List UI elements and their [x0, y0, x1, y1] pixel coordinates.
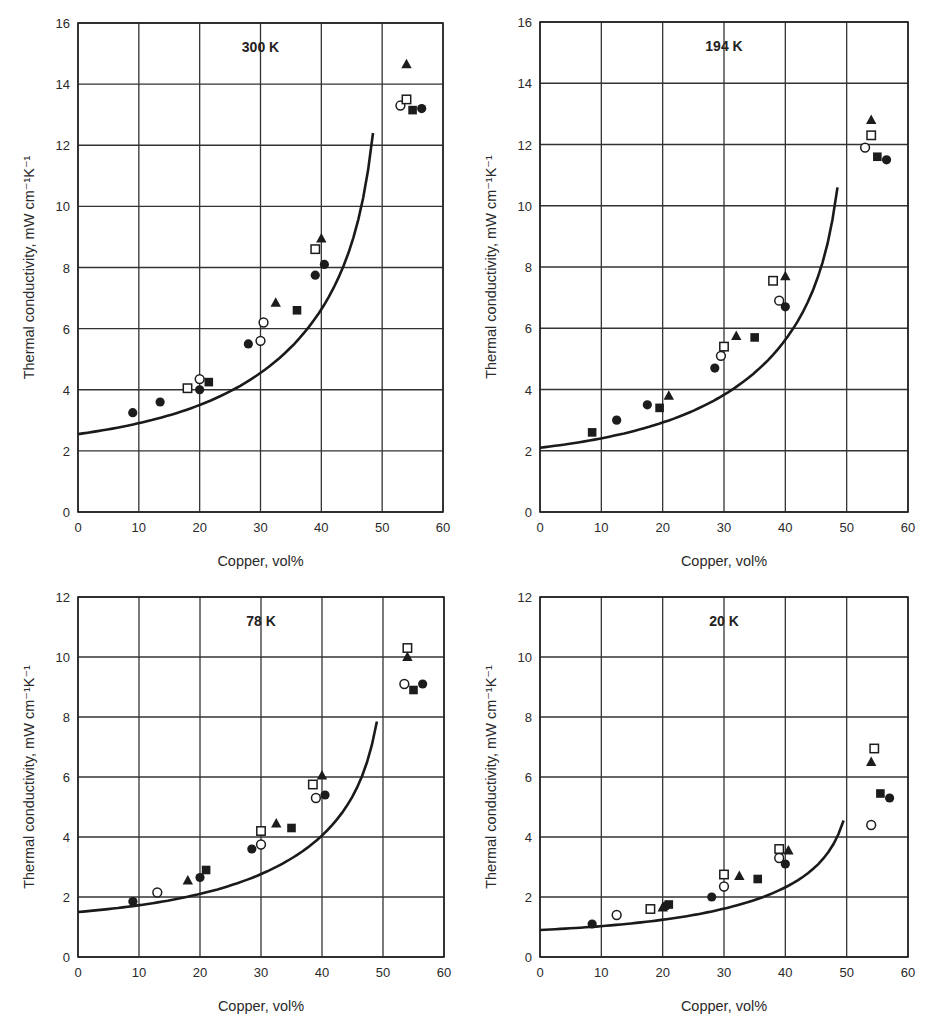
- marker-filled-circle: [128, 408, 137, 417]
- marker-filled-triangle: [271, 297, 281, 307]
- svg-text:16: 16: [56, 16, 70, 31]
- marker-filled-triangle: [664, 390, 674, 400]
- svg-text:50: 50: [375, 520, 389, 535]
- svg-text:60: 60: [437, 965, 451, 980]
- svg-text:4: 4: [525, 830, 532, 845]
- marker-filled-triangle: [183, 875, 193, 885]
- svg-text:4: 4: [525, 383, 532, 398]
- chart-194k: 01020304050600246810121416Copper, vol%Th…: [483, 15, 915, 569]
- marker-filled-circle: [417, 104, 426, 113]
- marker-open-square: [867, 131, 875, 139]
- svg-text:12: 12: [518, 138, 532, 153]
- marker-filled-circle: [882, 155, 891, 164]
- svg-text:0: 0: [63, 950, 70, 965]
- svg-text:20: 20: [193, 965, 207, 980]
- svg-text:4: 4: [63, 830, 70, 845]
- gridlines: [540, 597, 908, 957]
- figure: 01020304050600246810121416Copper, vol%Th…: [0, 0, 932, 1026]
- svg-text:50: 50: [839, 965, 853, 980]
- marker-filled-triangle: [271, 818, 281, 828]
- marker-filled-triangle: [866, 757, 876, 767]
- svg-text:10: 10: [132, 965, 146, 980]
- svg-text:10: 10: [132, 520, 146, 535]
- svg-text:50: 50: [839, 520, 853, 535]
- marker-filled-square: [876, 789, 885, 798]
- svg-text:0: 0: [525, 505, 532, 520]
- fit-curve: [78, 133, 373, 434]
- x-tick-labels: 0102030405060: [74, 965, 451, 980]
- svg-text:2: 2: [63, 444, 70, 459]
- svg-text:6: 6: [63, 322, 70, 337]
- marker-open-square: [769, 277, 777, 285]
- svg-text:30: 30: [717, 520, 731, 535]
- x-tick-labels: 0102030405060: [536, 965, 915, 980]
- x-tick-labels: 0102030405060: [536, 520, 915, 535]
- marker-open-circle: [256, 336, 265, 345]
- y-tick-labels: 0246810121416: [56, 16, 70, 520]
- svg-text:40: 40: [778, 520, 792, 535]
- svg-text:40: 40: [778, 965, 792, 980]
- marker-open-square: [402, 95, 410, 103]
- svg-text:14: 14: [56, 77, 70, 92]
- chart-title: 194 K: [705, 38, 742, 54]
- marker-open-circle: [195, 375, 204, 384]
- svg-text:50: 50: [376, 965, 390, 980]
- y-tick-labels: 024681012: [56, 590, 70, 965]
- marker-open-circle: [257, 840, 266, 849]
- svg-text:60: 60: [436, 520, 450, 535]
- chart-title: 78 K: [246, 613, 276, 629]
- marker-open-circle: [861, 143, 870, 152]
- data-markers: [588, 115, 891, 437]
- svg-text:60: 60: [901, 520, 915, 535]
- svg-text:0: 0: [63, 505, 70, 520]
- svg-text:8: 8: [63, 710, 70, 725]
- y-axis-label: Thermal conductivity, mW cm⁻¹K⁻¹: [21, 155, 37, 379]
- marker-filled-circle: [710, 363, 719, 372]
- marker-open-circle: [867, 821, 876, 830]
- marker-open-square: [183, 384, 191, 392]
- marker-filled-square: [665, 900, 674, 909]
- marker-filled-triangle: [866, 115, 876, 125]
- fit-curve: [540, 187, 838, 447]
- marker-filled-triangle: [401, 59, 411, 69]
- marker-filled-circle: [320, 260, 329, 269]
- svg-text:12: 12: [56, 138, 70, 153]
- svg-text:20: 20: [655, 520, 669, 535]
- svg-text:16: 16: [518, 15, 532, 30]
- marker-filled-square: [293, 306, 302, 315]
- marker-filled-circle: [588, 919, 597, 928]
- marker-filled-square: [753, 875, 762, 884]
- marker-filled-square: [408, 106, 417, 115]
- chart-20k: 0102030405060024681012Copper, vol%Therma…: [483, 590, 915, 1014]
- svg-text:0: 0: [525, 950, 532, 965]
- svg-text:2: 2: [525, 444, 532, 459]
- svg-text:10: 10: [56, 199, 70, 214]
- y-tick-labels: 0246810121416: [518, 15, 532, 520]
- marker-open-circle: [312, 794, 321, 803]
- chart-title: 300 K: [242, 39, 279, 55]
- marker-open-circle: [400, 680, 409, 689]
- marker-filled-circle: [244, 339, 253, 348]
- marker-open-circle: [775, 854, 784, 863]
- svg-text:6: 6: [525, 321, 532, 336]
- svg-text:6: 6: [63, 770, 70, 785]
- svg-text:4: 4: [63, 383, 70, 398]
- chart-78k: 0102030405060024681012Copper, vol%Therma…: [21, 590, 451, 1014]
- marker-filled-triangle: [734, 871, 744, 881]
- marker-filled-circle: [320, 790, 329, 799]
- marker-open-circle: [612, 911, 621, 920]
- marker-filled-triangle: [731, 330, 741, 340]
- marker-open-circle: [720, 882, 729, 891]
- marker-open-square: [775, 845, 783, 853]
- marker-open-circle: [259, 318, 268, 327]
- marker-open-circle: [717, 351, 726, 360]
- marker-filled-circle: [612, 416, 621, 425]
- fit-curve: [78, 722, 377, 913]
- marker-filled-square: [655, 404, 664, 413]
- svg-text:40: 40: [314, 520, 328, 535]
- marker-open-circle: [153, 888, 162, 897]
- marker-filled-circle: [643, 400, 652, 409]
- svg-text:12: 12: [518, 590, 532, 605]
- svg-text:10: 10: [56, 650, 70, 665]
- svg-text:30: 30: [254, 965, 268, 980]
